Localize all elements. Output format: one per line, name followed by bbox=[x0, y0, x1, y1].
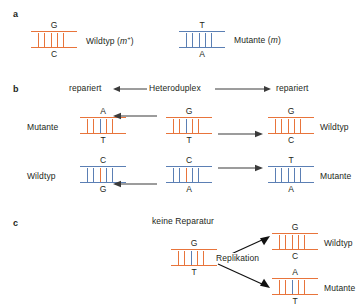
legend-wildtype: Wildtyp (m+) bbox=[86, 35, 134, 46]
dna-rung bbox=[198, 119, 199, 134]
panel-b-header-center: Heteroduplex bbox=[149, 83, 201, 93]
dna-rung-mismatch bbox=[100, 168, 101, 183]
panel-c-title: keine Reparatur bbox=[152, 216, 214, 226]
dna-rungs bbox=[275, 168, 301, 183]
arrow-b-top-right bbox=[218, 129, 263, 137]
dna-rung bbox=[186, 33, 187, 48]
base-label-top: T bbox=[179, 21, 225, 30]
legend-mutant: Mutante (m) bbox=[234, 35, 281, 45]
dna-rungs bbox=[279, 235, 305, 250]
base-label-bottom: T bbox=[272, 297, 318, 306]
arrow-b-bottom-right bbox=[218, 163, 263, 171]
dna-rungs bbox=[87, 119, 113, 134]
dna-rung bbox=[294, 168, 295, 183]
base-label-bottom: T bbox=[80, 136, 126, 145]
base-label-top: T bbox=[268, 156, 314, 165]
dna-rung bbox=[205, 33, 206, 48]
dna-rung bbox=[279, 235, 280, 250]
dna-rung bbox=[179, 168, 180, 183]
base-label-top: G bbox=[171, 239, 217, 248]
base-label-top: G bbox=[272, 223, 318, 232]
dna-rung bbox=[44, 33, 45, 48]
panel-b-row-bottom-right-label: Mutante bbox=[320, 171, 351, 181]
dna-rungs bbox=[173, 168, 199, 183]
dna-rung-mismatch bbox=[288, 119, 289, 134]
base-label-bottom: T bbox=[166, 136, 212, 145]
dna-rung bbox=[173, 168, 174, 183]
dna-rung bbox=[300, 168, 301, 183]
base-label-top: C bbox=[166, 156, 212, 165]
dna-rung bbox=[275, 168, 276, 183]
dna-rung bbox=[87, 168, 88, 183]
dna-rung bbox=[203, 251, 204, 266]
panel-b-row-bottom-left-label: Wildtyp bbox=[27, 171, 56, 181]
duplex-c-product-mutant: A T bbox=[272, 278, 318, 296]
base-label-top: C bbox=[80, 156, 126, 165]
base-label-bottom: C bbox=[31, 50, 77, 59]
base-label-top: A bbox=[272, 268, 318, 277]
dna-rung bbox=[281, 119, 282, 134]
base-label-bottom: T bbox=[171, 268, 217, 277]
panel-b-letter: b bbox=[13, 84, 19, 94]
base-label-bottom: A bbox=[166, 185, 212, 194]
dna-rung bbox=[192, 168, 193, 183]
duplex-c-source-heteroduplex: G T bbox=[171, 249, 217, 267]
dna-rung bbox=[106, 119, 107, 134]
panel-b-header-right: repariert bbox=[276, 83, 309, 93]
duplex-c-product-wildtype: G C bbox=[272, 233, 318, 251]
dna-rung bbox=[173, 119, 174, 134]
panel-b-header-left: repariert bbox=[69, 83, 102, 93]
dna-rung-mismatch bbox=[288, 168, 289, 183]
base-label-bottom: C bbox=[268, 136, 314, 145]
dna-rung bbox=[304, 280, 305, 295]
base-label-top: G bbox=[31, 21, 77, 30]
base-label-bottom: A bbox=[179, 50, 225, 59]
panel-c-process-label: Replikation bbox=[215, 253, 260, 263]
duplex-b-top-right: G C bbox=[268, 117, 314, 135]
base-label-top: G bbox=[166, 107, 212, 116]
dna-rungs bbox=[173, 119, 199, 134]
base-label-bottom: A bbox=[268, 185, 314, 194]
dna-rungs bbox=[178, 251, 204, 266]
base-label-top: G bbox=[268, 107, 314, 116]
dna-rung bbox=[211, 33, 212, 48]
dna-rung bbox=[112, 119, 113, 134]
dna-rung bbox=[38, 33, 39, 48]
dna-rungs bbox=[275, 119, 301, 134]
dna-rung bbox=[275, 119, 276, 134]
dna-rungs bbox=[279, 280, 305, 295]
duplex-wildtype-panel-a: G C bbox=[31, 31, 77, 49]
legend-mutant-text: Mutante ( bbox=[234, 35, 271, 45]
duplex-mutant-panel-a: T A bbox=[179, 31, 225, 49]
duplex-b-bottom-center-heteroduplex: C A bbox=[166, 166, 212, 184]
dna-rung bbox=[192, 119, 193, 134]
dna-rung-mismatch bbox=[292, 235, 293, 250]
dna-rung bbox=[93, 168, 94, 183]
dna-rung-mismatch bbox=[51, 33, 52, 48]
panel-b-row-top-right-label: Wildtyp bbox=[320, 122, 349, 132]
dna-rung bbox=[279, 280, 280, 295]
arrow-heteroduplex-to-left bbox=[113, 84, 147, 92]
arrow-c-to-mutant bbox=[218, 262, 270, 288]
duplex-b-top-center-heteroduplex: G T bbox=[166, 117, 212, 135]
duplex-b-bottom-right: T A bbox=[268, 166, 314, 184]
dna-rung bbox=[106, 168, 107, 183]
dna-rung bbox=[87, 119, 88, 134]
panel-c-product-top-label: Wildtyp bbox=[324, 238, 353, 248]
dna-rung bbox=[178, 251, 179, 266]
panel-b-row-top-left-label: Mutante bbox=[27, 122, 58, 132]
dna-rung bbox=[281, 168, 282, 183]
base-label-bottom: G bbox=[80, 185, 126, 194]
legend-wildtype-tail: ) bbox=[131, 36, 134, 46]
dna-rung bbox=[197, 251, 198, 266]
legend-wildtype-text: Wildtyp ( bbox=[86, 36, 120, 46]
legend-mutant-allele: m bbox=[271, 35, 278, 45]
dna-rung bbox=[198, 168, 199, 183]
base-label-top: A bbox=[80, 107, 126, 116]
dna-rung-mismatch bbox=[186, 168, 187, 183]
duplex-b-bottom-left: C G bbox=[80, 166, 126, 184]
dna-rung bbox=[192, 33, 193, 48]
arrow-heteroduplex-to-right bbox=[215, 84, 271, 92]
dna-rung bbox=[304, 235, 305, 250]
dna-rungs bbox=[87, 168, 113, 183]
